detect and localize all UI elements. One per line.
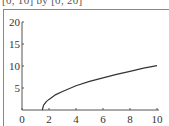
y-tick-label: 15 (9, 38, 21, 50)
y-tick-label: 5 (15, 82, 21, 94)
plot-area: 02468105101520 (0, 0, 169, 126)
x-tick-label: 0 (19, 113, 25, 125)
y-tick-label: 20 (9, 16, 21, 28)
x-tick-label: 8 (127, 113, 133, 125)
x-tick-label: 2 (46, 113, 52, 125)
x-tick-label: 10 (152, 113, 164, 125)
curve-line (42, 66, 157, 110)
x-tick-label: 4 (73, 113, 79, 125)
y-tick-label: 10 (9, 60, 21, 72)
x-tick-label: 6 (100, 113, 106, 125)
